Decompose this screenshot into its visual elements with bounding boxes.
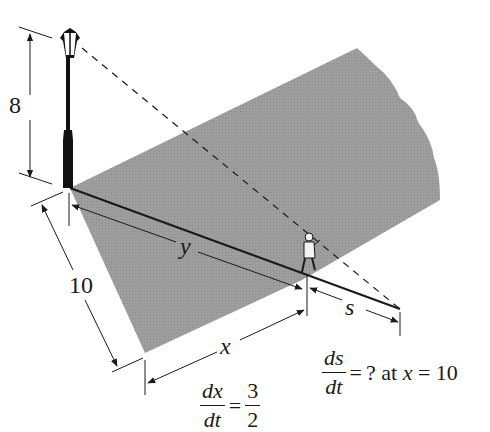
dx-dt-fraction: dx dt — [200, 378, 225, 432]
question-equation: ds dt = ? at x = 10 — [322, 345, 458, 400]
s-dim-right — [366, 310, 398, 322]
s-label: s — [345, 295, 354, 319]
side-ext-top — [31, 192, 63, 206]
ds-dt-fraction: ds dt — [322, 345, 346, 400]
height-ext-bottom — [19, 173, 52, 184]
lamp-post-icon — [60, 20, 80, 188]
three-halves-fraction: 3 2 — [245, 378, 260, 432]
x-dim-right — [240, 310, 304, 340]
x-label: x — [220, 334, 231, 358]
ground-region — [70, 48, 440, 353]
streetlight-diagram: 8 10 y s x dx dt = 3 2 ds dt = ? at x = … — [0, 0, 490, 432]
height-ext-top — [19, 27, 52, 38]
side-dim-upper — [42, 205, 73, 270]
given-rate-equation: dx dt = 3 2 — [200, 378, 260, 432]
side-distance-label: 10 — [69, 273, 93, 297]
lamp-height-label: 8 — [9, 93, 21, 117]
side-dim-lower — [85, 300, 117, 366]
y-label: y — [180, 234, 191, 258]
s-dim-left — [310, 288, 342, 300]
